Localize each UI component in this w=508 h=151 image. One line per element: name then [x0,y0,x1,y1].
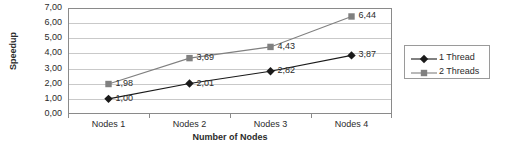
data-point-marker [186,55,192,61]
x-axis-title: Number of Nodes [68,132,392,142]
y-tick-label: 5,00 [28,33,62,42]
data-point-label: 3,69 [197,53,215,62]
x-tick-label: Nodes 3 [230,119,311,129]
data-point-label: 3,87 [359,50,377,59]
data-point-marker [185,79,193,87]
data-point-label: 2,82 [278,66,296,75]
y-tick-label: 7,00 [28,3,62,12]
x-tick-mark [311,114,312,118]
x-tick-label: Nodes 1 [68,119,149,129]
data-point-label: 1,00 [116,94,134,103]
data-point-label: 4,43 [278,42,296,51]
y-axis-title: Speedup [8,16,18,86]
series-line [109,16,352,84]
data-point-label: 2,01 [197,79,215,88]
speedup-line-chart: Speedup 7,006,005,004,003,002,001,000,00… [0,0,508,151]
y-tick-label: 1,00 [28,94,62,103]
data-point-marker [347,51,355,59]
y-tick-label: 0,00 [28,109,62,118]
legend-diamond-marker-icon [411,51,437,63]
x-axis-tick-labels: Nodes 1Nodes 2Nodes 3Nodes 4 [68,114,392,132]
x-tick-mark [68,114,69,118]
legend-square-marker-icon [411,65,437,77]
data-point-marker [267,44,273,50]
series-line [109,55,352,98]
x-tick-mark [391,114,392,118]
data-point-label: 6,44 [359,11,377,20]
data-point-marker [105,81,111,87]
y-tick-label: 2,00 [28,79,62,88]
data-point-label: 1,98 [116,79,134,88]
data-point-marker [266,67,274,75]
chart-legend: 1 Thread2 Threads [404,45,490,79]
y-tick-label: 6,00 [28,18,62,27]
x-tick-label: Nodes 4 [311,119,392,129]
data-point-marker [104,95,112,103]
x-tick-mark [230,114,231,118]
x-tick-label: Nodes 2 [149,119,230,129]
legend-item-label: 2 Threads [439,66,479,76]
x-tick-mark [149,114,150,118]
legend-item[interactable]: 2 Threads [409,65,487,77]
data-point-marker [348,13,354,19]
y-axis-tick-labels: 7,006,005,004,003,002,001,000,00 [26,0,62,120]
y-tick-label: 4,00 [28,48,62,57]
legend-item-label: 1 Thread [439,52,475,62]
y-tick-label: 3,00 [28,64,62,73]
legend-item[interactable]: 1 Thread [409,51,487,63]
